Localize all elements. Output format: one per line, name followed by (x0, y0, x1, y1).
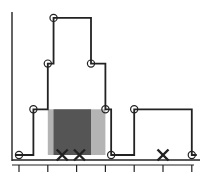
step-path (15, 18, 197, 155)
shaded-region-dark (54, 109, 91, 155)
cross-marker (158, 150, 169, 161)
step-line (15, 18, 197, 155)
step-chart (0, 0, 207, 178)
shaded-regions (48, 109, 106, 155)
